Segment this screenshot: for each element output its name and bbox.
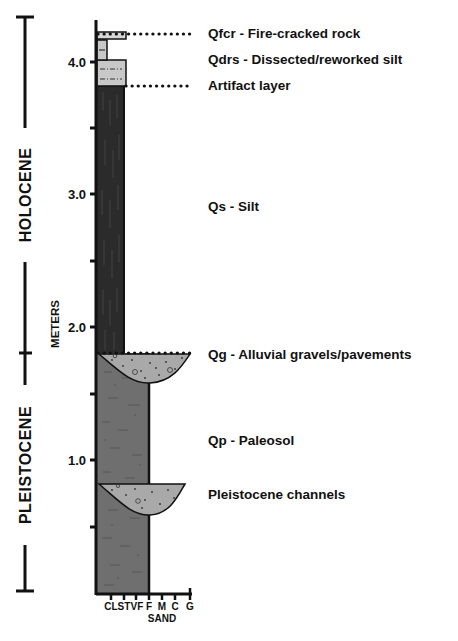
pleistocene-epoch-bar: PLEISTOCENE [16, 353, 34, 591]
tick-label-1: 1.0 [68, 453, 86, 468]
holocene-epoch-bar: HOLOCENE [16, 17, 34, 353]
grain-m: M [158, 601, 166, 612]
tick-label-4: 4.0 [68, 55, 86, 70]
unit-label-artifact: Artifact layer [208, 78, 291, 93]
grain-cl: CL [104, 601, 117, 612]
silt-layer [97, 86, 124, 353]
unit-label-qp: Qp - Paleosol [208, 433, 294, 448]
paleosol-layer [97, 353, 149, 594]
tick-label-3: 3.0 [68, 187, 86, 202]
holocene-label: HOLOCENE [17, 148, 34, 243]
unit-label-channels: Pleistocene channels [208, 487, 345, 502]
unit-label-qs: Qs - Silt [208, 199, 260, 214]
tick-label-2: 2.0 [68, 320, 86, 335]
grain-size-labels: CL ST VF F M C G SAND [104, 601, 194, 624]
unit-label-qg: Qg - Alluvial gravels/pavements [208, 347, 412, 362]
grain-f: F [146, 601, 152, 612]
sand-group-label: SAND [148, 613, 176, 624]
reworked-silt-layer [97, 40, 126, 86]
unit-label-qfcr: Qfcr - Fire-cracked rock [208, 26, 361, 41]
grain-c: C [171, 601, 178, 612]
grain-st: ST [118, 601, 131, 612]
pleistocene-label: PLEISTOCENE [17, 406, 34, 524]
stratigraphic-column-figure: HOLOCENE PLEISTOCENE METERS [0, 0, 458, 641]
y-axis-label: METERS [49, 300, 61, 348]
unit-label-qdrs: Qdrs - Dissected/reworked silt [208, 52, 403, 67]
grain-vf: VF [131, 601, 144, 612]
grain-g: G [186, 601, 194, 612]
